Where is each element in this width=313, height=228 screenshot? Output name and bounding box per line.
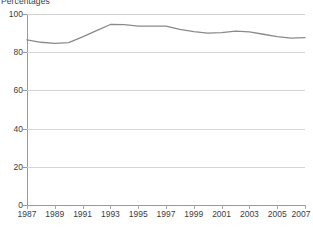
y-axis-label-20: 20 bbox=[1, 162, 23, 172]
x-axis-tick-2005 bbox=[277, 205, 278, 209]
y-axis-label-40: 40 bbox=[1, 124, 23, 134]
x-axis-label-1987: 1987 bbox=[18, 209, 37, 219]
x-axis-tick-1995 bbox=[138, 205, 139, 209]
y-axis-tick-20 bbox=[23, 167, 27, 168]
gridline-group bbox=[27, 14, 305, 205]
x-axis-label-1999: 1999 bbox=[184, 209, 203, 219]
chart-axis-title: Percentages bbox=[1, 0, 50, 6]
y-axis-tick-80 bbox=[23, 52, 27, 53]
y-axis-label-100: 100 bbox=[1, 9, 23, 19]
x-axis-label-1997: 1997 bbox=[157, 209, 176, 219]
x-axis-label-2007: 2007 bbox=[292, 209, 311, 219]
x-axis-tick-1991 bbox=[83, 205, 84, 209]
gridline-20 bbox=[27, 167, 305, 168]
x-axis-tick-2001 bbox=[222, 205, 223, 209]
gridline-60 bbox=[27, 90, 305, 91]
x-axis-label-1989: 1989 bbox=[45, 209, 64, 219]
y-axis-label-60: 60 bbox=[1, 85, 23, 95]
y-axis-tick-40 bbox=[23, 129, 27, 130]
gridline-40 bbox=[27, 129, 305, 130]
x-axis-label-1993: 1993 bbox=[101, 209, 120, 219]
y-axis-tick-100 bbox=[23, 14, 27, 15]
gridline-100 bbox=[27, 14, 305, 15]
x-axis-label-2001: 2001 bbox=[212, 209, 231, 219]
y-axis-tick-60 bbox=[23, 90, 27, 91]
x-axis-tick-2007 bbox=[305, 205, 306, 209]
gridline-80 bbox=[27, 52, 305, 53]
x-axis-tick-1999 bbox=[194, 205, 195, 209]
x-axis-label-2005: 2005 bbox=[268, 209, 287, 219]
y-axis-labels: 020406080100 bbox=[0, 14, 23, 205]
x-axis-tick-1997 bbox=[166, 205, 167, 209]
x-axis-tick-2003 bbox=[249, 205, 250, 209]
x-axis-label-1995: 1995 bbox=[129, 209, 148, 219]
y-axis-label-80: 80 bbox=[1, 47, 23, 57]
x-axis-label-1991: 1991 bbox=[73, 209, 92, 219]
line-chart: Percentages 020406080100 198719891991199… bbox=[0, 0, 313, 228]
x-axis-label-2003: 2003 bbox=[240, 209, 259, 219]
x-axis-tick-1989 bbox=[55, 205, 56, 209]
x-axis-tick-1993 bbox=[110, 205, 111, 209]
x-axis-tick-1987 bbox=[27, 205, 28, 209]
